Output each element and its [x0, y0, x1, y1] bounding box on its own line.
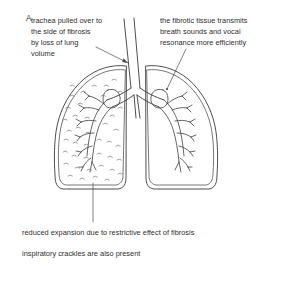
- fibrotic-note-line-1: the fibrotic tissue transmits: [160, 16, 248, 25]
- carina: [107, 88, 164, 118]
- fibrotic-transmission-note: the fibrotic tissue transmits breath sou…: [160, 16, 248, 47]
- left-bronchial-tree: [75, 89, 120, 172]
- figure-panel: A trachea pulled over to the side of fib…: [0, 0, 287, 287]
- reduced-expansion-caption: reduced expansion due to restrictive eff…: [22, 228, 195, 237]
- fibrotic-note-leader-dot: [166, 88, 168, 90]
- fibrotic-note-line-3: resonance more efficiently: [160, 38, 246, 47]
- trachea-note-line-4: volume: [31, 49, 55, 58]
- trachea-deviation-note: trachea pulled over to the side of fibro…: [31, 16, 102, 58]
- trachea-note-line-2: the side of fibrosis: [31, 27, 91, 36]
- trachea-note-leader: [96, 47, 128, 63]
- fibrosis-stippling: [63, 79, 122, 180]
- trachea-note-arrowhead: [122, 58, 128, 63]
- lung-fibrosis-diagram: A trachea pulled over to the side of fib…: [0, 0, 287, 287]
- right-bronchial-tree: [151, 89, 196, 172]
- trachea-note-line-3: by loss of lung: [31, 38, 78, 47]
- trachea-note-line-1: trachea pulled over to: [31, 16, 102, 25]
- fibrotic-note-line-2: breath sounds and vocal: [160, 27, 241, 36]
- inspiratory-crackles-caption: inspiratory crackles are also present: [22, 249, 140, 258]
- fibrotic-note-leader: [166, 49, 186, 90]
- normal-lung: [146, 66, 218, 189]
